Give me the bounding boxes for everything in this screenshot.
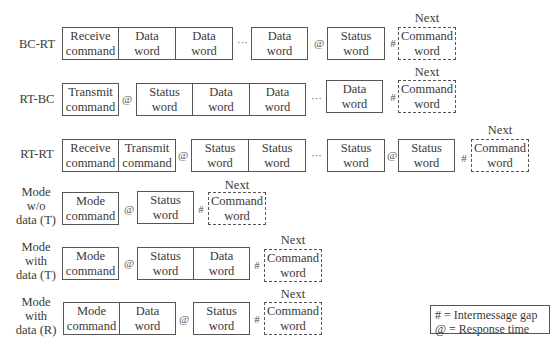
intermessage-gap-symbol: # (458, 152, 470, 164)
receive-command-box: Receivecommand (62, 27, 119, 60)
next-caption: Next (398, 65, 456, 80)
box-text: word (401, 44, 453, 59)
mode-command-box: Modecommand (63, 302, 120, 335)
row-label-rt-bc: RT-BC (14, 92, 60, 106)
data-word-box: Dataword (194, 247, 250, 280)
row-label-mode-with-data-t: Mode with data (T) (10, 240, 62, 282)
label-line: with (10, 309, 62, 323)
row-label-bc-rt: BC-RT (14, 37, 60, 51)
box-text: Status (150, 249, 181, 264)
box-text: word (341, 156, 372, 171)
box-text: Command (474, 141, 526, 156)
box-text: Command (211, 194, 263, 209)
box-text: Command (401, 29, 453, 44)
box-text: command (66, 100, 115, 115)
box-text: word (211, 209, 263, 224)
box-text: word (135, 319, 161, 334)
box-text: word (267, 44, 293, 59)
next-caption: Next (471, 123, 529, 138)
box-text: Transmit (122, 141, 171, 156)
response-time-symbol: @ (386, 149, 398, 161)
data-word-box: Dataword (251, 27, 308, 60)
label-line: with (10, 254, 62, 268)
response-time-symbol: @ (313, 37, 325, 49)
label-line: data (T) (10, 268, 62, 282)
receive-command-box: Receivecommand (62, 139, 119, 172)
status-word-box: Statusword (327, 27, 385, 60)
box-text: Command (267, 304, 319, 319)
box-text: word (206, 319, 237, 334)
transmit-command-box: Transmitcommand (62, 83, 119, 116)
intermessage-gap-symbol: # (251, 259, 263, 271)
intermessage-gap-symbol: # (251, 313, 263, 325)
ellipsis: ··· (237, 36, 248, 48)
response-time-symbol: @ (123, 203, 135, 215)
legend-response-time: @ = Response time (435, 322, 545, 336)
status-word-box: Statusword (137, 247, 194, 280)
data-word-box: Dataword (250, 83, 306, 116)
response-time-symbol: @ (123, 257, 135, 269)
next-command-word-box: Commandword (264, 249, 322, 282)
label-line: Mode (10, 240, 62, 254)
box-text: command (67, 319, 116, 334)
row-label-mode-with-data-r: Mode with data (R) (10, 295, 62, 337)
box-text: Data (209, 249, 235, 264)
label-line: Mode (10, 185, 62, 199)
label-line: data (R) (10, 323, 62, 337)
label-line: data (T) (10, 213, 62, 227)
next-caption: Next (398, 11, 456, 26)
box-text: Data (267, 29, 293, 44)
next-caption: Next (208, 178, 266, 193)
box-text: command (66, 264, 115, 279)
box-text: word (267, 266, 319, 281)
mode-command-box: Modecommand (62, 247, 119, 280)
box-text: Data (134, 29, 160, 44)
box-text: Data (208, 85, 234, 100)
box-text: Mode (66, 194, 115, 209)
box-text: Mode (67, 304, 116, 319)
box-text: Data (191, 29, 217, 44)
box-text: word (134, 44, 160, 59)
data-word-box: Dataword (119, 27, 176, 60)
box-text: Status (411, 141, 442, 156)
box-text: word (191, 44, 217, 59)
ellipsis: ··· (311, 92, 322, 104)
ellipsis: ··· (311, 149, 322, 161)
status-word-box: Statusword (398, 139, 455, 172)
box-text: word (150, 208, 181, 223)
status-word-box: Statusword (136, 83, 193, 116)
box-text: Receive (66, 29, 115, 44)
legend: # = Intermessage gap @ = Response time (430, 305, 550, 334)
box-text: word (205, 156, 236, 171)
box-text: command (66, 156, 115, 171)
box-text: Status (205, 141, 236, 156)
box-text: Command (401, 82, 453, 97)
status-word-box: Statusword (193, 302, 250, 335)
status-word-box: Statusword (327, 139, 385, 172)
box-text: Data (265, 85, 291, 100)
box-text: Data (342, 82, 368, 97)
row-label-mode-without-data-t: Mode w/o data (T) (10, 185, 62, 227)
box-text: Command (267, 251, 319, 266)
mode-command-box: Modecommand (62, 192, 119, 225)
box-text: word (474, 156, 526, 171)
next-caption: Next (264, 233, 322, 248)
label-line: Mode (10, 295, 62, 309)
next-command-word-box: Commandword (208, 192, 266, 225)
next-command-word-box: Commandword (398, 27, 456, 60)
box-text: word (209, 264, 235, 279)
box-text: word (341, 44, 372, 59)
box-text: command (66, 44, 115, 59)
row-label-rt-rt: RT-RT (14, 147, 60, 161)
box-text: word (401, 97, 453, 112)
data-word-box: Dataword (120, 302, 176, 335)
box-text: word (342, 97, 368, 112)
box-text: Status (206, 304, 237, 319)
box-text: Status (149, 85, 180, 100)
response-time-symbol: @ (177, 149, 189, 161)
response-time-symbol: @ (121, 93, 133, 105)
data-word-box: Dataword (326, 80, 383, 113)
box-text: word (262, 156, 293, 171)
box-text: command (122, 156, 171, 171)
status-word-box: Statusword (137, 191, 194, 224)
